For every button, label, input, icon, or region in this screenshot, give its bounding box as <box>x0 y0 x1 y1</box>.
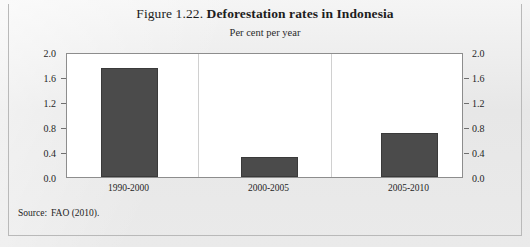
ytick-right-0.8 <box>464 128 469 129</box>
ytick-label-right-2.0: 2.0 <box>472 49 485 59</box>
plot-area <box>66 53 463 178</box>
figure-container: Figure 1.22. Deforestation rates in Indo… <box>0 0 530 247</box>
ytick-label-right-0.0: 0.0 <box>472 174 485 184</box>
ytick-label-left-1.6: 1.6 <box>16 74 56 84</box>
bar-2000-2005 <box>241 157 298 177</box>
ytick-label-right-1.2: 1.2 <box>472 99 485 109</box>
source-note: Source:FAO (2010). <box>18 208 99 218</box>
ytick-label-left-0.8: 0.8 <box>16 124 56 134</box>
category-separator <box>331 54 332 177</box>
source-label: Source: <box>18 208 47 218</box>
ytick-right-0.4 <box>464 153 469 154</box>
ytick-left-1.2 <box>61 103 66 104</box>
ytick-left-0.8 <box>61 128 66 129</box>
ytick-label-right-1.6: 1.6 <box>472 74 485 84</box>
ytick-label-left-2.0: 2.0 <box>16 49 56 59</box>
ytick-label-left-1.2: 1.2 <box>16 99 56 109</box>
category-separator <box>198 54 199 177</box>
bar-1990-2000 <box>101 68 158 177</box>
bars-layer <box>67 54 462 177</box>
ytick-label-left-0.4: 0.4 <box>16 149 56 159</box>
ytick-label-right-0.4: 0.4 <box>472 149 485 159</box>
ytick-right-1.6 <box>464 78 469 79</box>
xtick-label-2005-2010: 2005-2010 <box>369 183 449 193</box>
ytick-left-1.6 <box>61 78 66 79</box>
xtick-label-1990-2000: 1990-2000 <box>89 183 169 193</box>
ytick-right-1.2 <box>464 103 469 104</box>
ytick-label-left-0.0: 0.0 <box>16 174 56 184</box>
source-text: FAO (2010). <box>51 208 99 218</box>
ytick-left-0.4 <box>61 153 66 154</box>
ytick-label-right-0.8: 0.8 <box>472 124 485 134</box>
xtick-label-2000-2005: 2000-2005 <box>229 183 309 193</box>
bar-2005-2010 <box>381 133 438 177</box>
